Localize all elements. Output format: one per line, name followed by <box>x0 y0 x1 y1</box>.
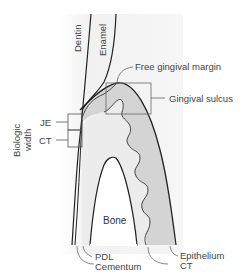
je-label: JE <box>40 118 51 128</box>
ct-left-label: CT <box>39 136 52 146</box>
free-gingival-margin-label: Free gingival margin <box>135 62 221 72</box>
enamel-label: Enamel <box>98 24 108 56</box>
ct-right-label: CT <box>180 261 193 271</box>
periodontium-diagram <box>0 0 241 274</box>
cementum-label: Cementum <box>95 262 141 272</box>
bone-label: Bone <box>103 216 126 226</box>
biologic-width-label-line2: width <box>23 129 33 151</box>
gingival-sulcus-label: Gingival sulcus <box>169 94 233 104</box>
dentin-label: Dentin <box>73 25 83 52</box>
biologic-width-label-line1: Biologic <box>12 124 22 157</box>
